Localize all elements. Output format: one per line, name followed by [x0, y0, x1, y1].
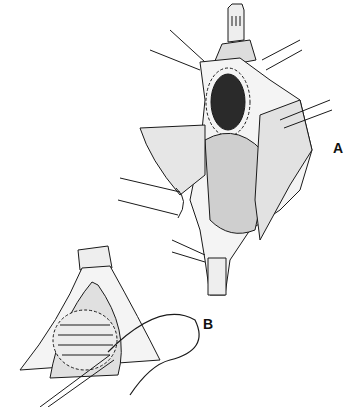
panel-label-b: B	[203, 316, 213, 332]
panel-label-a: A	[333, 140, 343, 156]
panel-b-drawing	[20, 246, 199, 407]
surgical-illustration	[0, 0, 355, 407]
panel-a-drawing	[118, 4, 332, 295]
